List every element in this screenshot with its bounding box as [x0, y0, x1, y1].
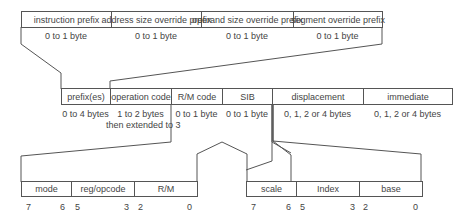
- bit-3-sib: 3: [350, 202, 355, 212]
- field-displacement: displacement: [273, 89, 364, 104]
- bit-6-sib: 6: [286, 202, 291, 212]
- bit-6-modrm: 6: [60, 202, 65, 212]
- field-base: base: [360, 182, 422, 196]
- size-displacement: 0, 1, 2 or 4 bytes: [272, 109, 363, 119]
- bit-2-sib: 2: [363, 202, 368, 212]
- bit-7-modrm: 7: [26, 202, 31, 212]
- size-segment-override-prefix: 0 to 1 byte: [293, 31, 382, 41]
- bit-0-modrm: 0: [187, 202, 192, 212]
- field-immediate: immediate: [364, 89, 452, 104]
- instruction-row: prefix(es) operation code R/M code SIB d…: [61, 88, 453, 105]
- size-instruction-prefix: 0 to 1 byte: [21, 31, 111, 41]
- bit-5-modrm: 5: [75, 202, 80, 212]
- field-scale: scale: [247, 182, 297, 196]
- field-rm-code: R/M code: [172, 89, 223, 104]
- sib-byte-row: scale Index base: [246, 181, 423, 197]
- size-sib: 0 to 1 byte: [222, 109, 272, 119]
- size-operation-code-line2: then extended to 3: [106, 120, 172, 130]
- field-operand-size-override-prefix: operand size override prefix: [202, 12, 294, 27]
- size-operation-code: 1 to 2 bytes: [110, 109, 171, 119]
- field-segment-override-prefix: segment override prefix: [294, 12, 382, 27]
- bit-5-sib: 5: [300, 202, 305, 212]
- field-index: Index: [297, 182, 360, 196]
- prefix-row: instruction prefix address size override…: [21, 11, 383, 28]
- size-operand-size-override-prefix: 0 to 1 byte: [201, 31, 293, 41]
- field-sib: SIB: [223, 89, 273, 104]
- field-mode: mode: [22, 182, 72, 196]
- field-prefixes: prefix(es): [62, 89, 111, 104]
- size-address-size-override-prefix: 0 to 1 byte: [111, 31, 201, 41]
- field-rm: R/M: [135, 182, 197, 196]
- size-immediate: 0, 1, 2 or 4 bytes: [363, 109, 452, 119]
- field-operation-code: operation code: [111, 89, 172, 104]
- field-reg-opcode: reg/opcode: [72, 182, 135, 196]
- bit-0-sib: 0: [413, 202, 418, 212]
- size-prefixes: 0 to 4 bytes: [58, 109, 113, 119]
- field-address-size-override-prefix: address size override prefix: [112, 12, 202, 27]
- size-rm-code: 0 to 1 byte: [171, 109, 222, 119]
- bit-2-modrm: 2: [138, 202, 143, 212]
- bit-3-modrm: 3: [124, 202, 129, 212]
- bit-7-sib: 7: [251, 202, 256, 212]
- modrm-byte-row: mode reg/opcode R/M: [21, 181, 198, 197]
- field-instruction-prefix: instruction prefix: [22, 12, 112, 27]
